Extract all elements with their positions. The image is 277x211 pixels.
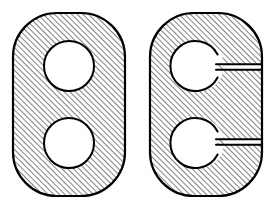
right-lower-hole [170, 118, 217, 168]
right-upper-hole [170, 41, 217, 91]
left-upper-hole [44, 41, 94, 91]
drawing-svg [0, 0, 277, 211]
technical-drawing-canvas [0, 0, 277, 211]
left-lower-hole [44, 118, 94, 168]
